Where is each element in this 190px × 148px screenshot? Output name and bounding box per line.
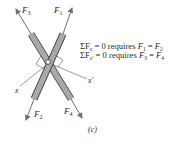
figure-caption: (c) [88,125,97,134]
force-arrow-f2 [26,99,34,120]
two-bar-force-diagram: F3 F1 F2 F4 x x′ ΣFx = 0 requires F1 = F… [0,0,190,148]
pin-joint-icon [46,60,51,65]
label-x-axis: x [14,86,19,95]
label-f3: F3 [21,5,31,16]
label-x-prime-axis: x′ [87,76,94,85]
label-f2: F2 [33,109,43,120]
label-f4: F4 [63,106,73,117]
force-arrow-f4 [71,99,82,118]
equation-sum-fx-prime: ΣFx′ = 0 requires F3 = F4 [80,50,164,61]
force-arrow-f1 [63,8,72,34]
label-f1: F1 [53,5,63,16]
